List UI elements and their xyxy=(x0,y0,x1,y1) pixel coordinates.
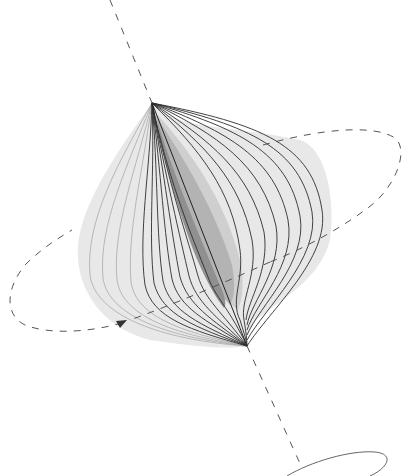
diagram-canvas xyxy=(0,0,405,476)
flow-surface-diagram xyxy=(0,0,405,476)
small-ellipse xyxy=(287,452,387,476)
